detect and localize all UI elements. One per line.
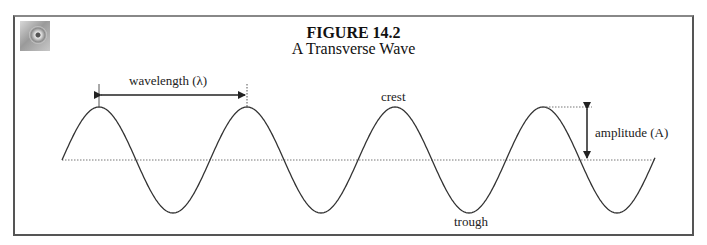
transverse-wave-diagram	[0, 0, 707, 245]
amplitude-label: amplitude (A)	[595, 125, 668, 141]
wavelength-label: wavelength (λ)	[129, 73, 207, 89]
trough-label: trough	[454, 214, 488, 230]
crest-label: crest	[381, 89, 406, 105]
